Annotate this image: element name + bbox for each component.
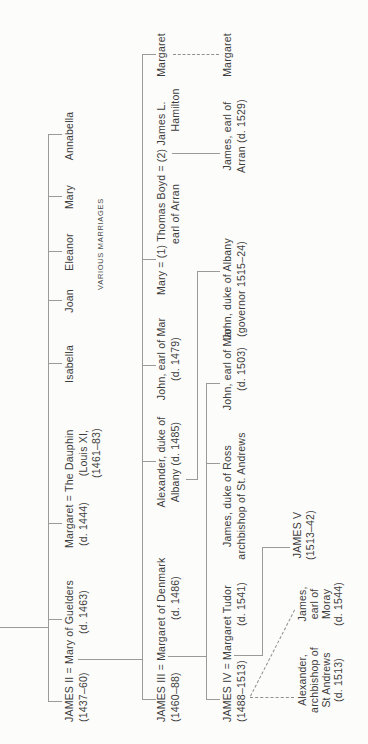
riser-james-iv: [206, 699, 220, 700]
john-mar-1479-label: John, earl of Mar: [156, 318, 167, 400]
john-mar-1503-label: John, earl of Mar: [222, 328, 233, 410]
riser-margaret-gen2: [142, 54, 156, 55]
marriage-drop-james-ii: [78, 659, 142, 660]
riser-john-mar-1479: [142, 365, 156, 366]
john-albany-label: John, duke of Albany: [222, 238, 233, 340]
margaret-gen2-label: Margaret: [156, 33, 167, 77]
scanned-family-tree-page: JAMES II = Mary of Guelders (1437–60) (d…: [0, 0, 368, 744]
james-v-connector-horizontal: [262, 548, 263, 656]
margaret-gen1-dates: (d. 1444): [78, 502, 89, 546]
riser-mary-of-guelders: [48, 619, 62, 620]
james-v-connector-drop: [234, 655, 262, 656]
riser-james-ii: [48, 701, 62, 702]
riser-margaret-gen1: [48, 523, 62, 524]
james-iv-dates: (1488–1513): [236, 660, 247, 722]
illegitimate-dashed-line-alexander: [250, 697, 294, 698]
alexander-archbishop-title: archbishop of: [309, 647, 320, 713]
james-iii-dates: (1460–88): [170, 672, 181, 722]
riser-joan: [48, 300, 62, 301]
gen1-sibling-line: [48, 135, 49, 702]
james-iii-couple-label: JAMES III = Margaret of Denmark: [156, 558, 167, 722]
family-tree-canvas: JAMES II = Mary of Guelders (1437–60) (d…: [0, 0, 368, 744]
daughter-mary: Mary: [64, 185, 75, 209]
arran-descent-line: [172, 153, 220, 154]
alexander-archbishop-see: St Andrews: [321, 652, 332, 707]
gen3-sibling-line: [206, 384, 207, 700]
gen2-sibling-line: [142, 55, 143, 700]
albany-connector-riser: [197, 271, 220, 272]
dauphin-louis-label: (Louis XI,: [78, 430, 89, 476]
daughter-eleanor: Eleanor: [64, 233, 75, 271]
james-v-label: JAMES V: [292, 512, 303, 558]
james-moray-title: earl of: [309, 589, 320, 620]
john-mar-1503-dates: (d. 1503): [236, 347, 247, 391]
daughter-isabella: Isabella: [64, 345, 75, 383]
james-iv-couple-label: JAMES IV = Margaret Tudor: [222, 585, 233, 722]
riser-john-mar-1503: [206, 383, 220, 384]
riser-eleanor: [48, 251, 62, 252]
james-ii-couple-label: JAMES II = Mary of Guelders: [64, 580, 75, 722]
alexander-archbishop-name: Alexander,: [297, 654, 308, 706]
james-ross-title: archbishop of St. Andrews: [236, 432, 247, 559]
james-ross-label: James, duke of Ross: [222, 445, 233, 547]
alexander-albany-label: Alexander, duke of: [156, 417, 167, 508]
parent-connector-stub: [0, 627, 48, 628]
riser-james-ross: [206, 463, 220, 464]
margaret-tudor-dates: (d. 1541): [236, 582, 247, 626]
james-v-connector-riser: [262, 547, 290, 548]
riser-mary-gen1: [48, 196, 62, 197]
thomas-boyd-title: earl of Arran: [170, 184, 181, 244]
margaret-dauphin-couple-label: Margaret = The Dauphin: [64, 429, 75, 548]
james-arran-label: James, earl of: [222, 102, 233, 171]
albany-connector-drop: [186, 479, 197, 480]
james-ii-dates: (1437–60): [78, 672, 89, 722]
daughter-annabella: Annabella: [64, 112, 75, 161]
marriage-drop-james-iii: [168, 656, 206, 657]
alexander-archbishop-dates: (d. 1513): [333, 658, 344, 702]
alexander-albany-dates: Albany (d. 1485): [170, 422, 181, 502]
james-moray-earldom: Moray: [321, 589, 332, 619]
riser-isabella: [48, 363, 62, 364]
margaret-of-denmark-dates: (d. 1486): [170, 576, 181, 620]
riser-annabella: [48, 134, 62, 135]
john-mar-1479-dates: (d. 1479): [170, 337, 181, 381]
james-arran-dates: Arran (d. 1529): [236, 99, 247, 173]
james-moray-dates: (d. 1544): [333, 582, 344, 626]
riser-mary-gen2: [142, 259, 156, 260]
various-marriages-note: VARIOUS MARRIAGES: [95, 198, 106, 290]
riser-james-iii: [142, 699, 156, 700]
james-v-dates: (1513–42): [305, 510, 316, 560]
hamilton-name: Hamilton: [170, 88, 181, 131]
margaret-gen3-label: Margaret: [222, 33, 233, 77]
dauphin-dates: (1461–83): [91, 428, 102, 478]
illegitimate-dashed-line-moray: [250, 610, 295, 697]
james-moray-name: James,: [297, 586, 308, 621]
albany-connector-horizontal: [197, 272, 198, 480]
john-albany-governor-dates: (governor 1515–24): [236, 241, 247, 337]
margaret-dashed-descent: [173, 54, 219, 55]
riser-alexander-albany: [142, 461, 156, 462]
mary-marriages-label: Mary = (1) Thomas Boyd = (2) James L.: [156, 101, 167, 295]
daughter-joan: Joan: [64, 289, 75, 313]
mary-of-guelders-dates: (d. 1463): [78, 590, 89, 634]
